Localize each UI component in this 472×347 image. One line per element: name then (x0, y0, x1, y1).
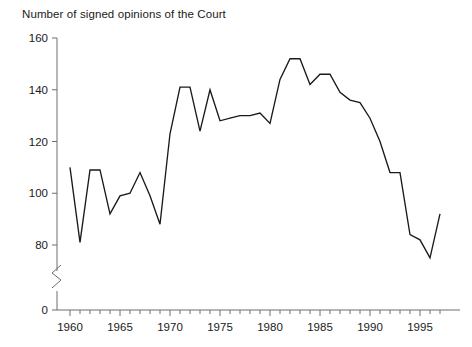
series-polyline (70, 59, 440, 258)
y-axis-tick-label: 140 (29, 84, 48, 96)
y-axis-tick-label: 120 (29, 136, 48, 148)
line-chart-plot: 080100120140160 196019651970197519801985… (0, 0, 472, 347)
x-axis-ticks (70, 310, 440, 316)
x-axis-labels: 19601965197019751980198519901995 (57, 321, 433, 333)
chart-container: Number of signed opinions of the Court 0… (0, 0, 472, 347)
x-axis-tick-label: 1960 (57, 321, 83, 333)
x-axis-tick-label: 1970 (157, 321, 183, 333)
x-axis-tick-label: 1995 (407, 321, 433, 333)
y-axis-labels: 080100120140160 (29, 32, 48, 316)
y-axis-break-icon (52, 265, 61, 288)
x-axis-tick-label: 1980 (257, 321, 283, 333)
y-axis-tick-label: 160 (29, 32, 48, 44)
y-axis-tick-label: 80 (35, 239, 48, 251)
x-axis-tick-label: 1990 (357, 321, 383, 333)
x-axis-tick-label: 1985 (307, 321, 333, 333)
x-axis-tick-label: 1975 (207, 321, 233, 333)
y-axis-tick-label: 100 (29, 187, 48, 199)
y-axis-tick-label: 0 (42, 304, 48, 316)
x-axis-tick-label: 1965 (107, 321, 133, 333)
data-series-line (70, 59, 440, 258)
